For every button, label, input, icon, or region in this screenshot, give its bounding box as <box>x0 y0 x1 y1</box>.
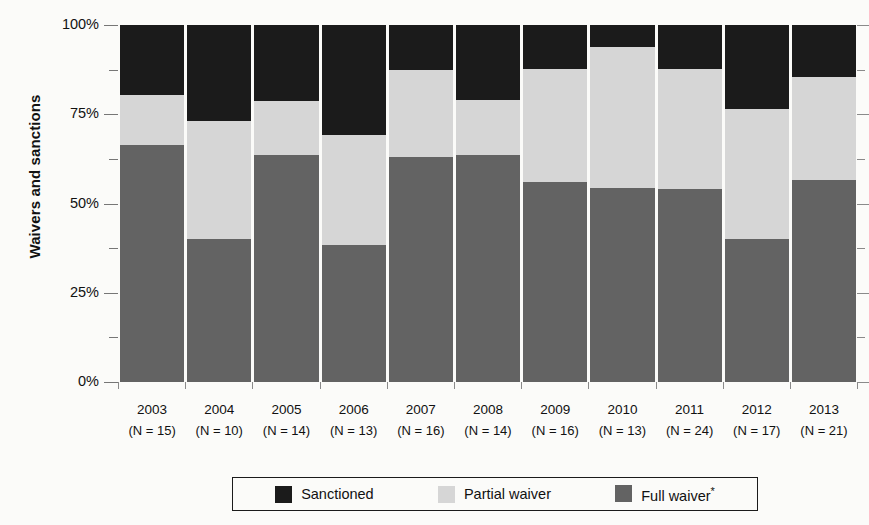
x-axis-year: 2006 <box>322 400 386 421</box>
bar-column <box>725 25 789 382</box>
y-axis-title: Waivers and sanctions <box>26 57 43 297</box>
legend-item-full-waiver: Full waiver* <box>615 485 715 504</box>
bar-segment <box>254 155 318 382</box>
x-axis-sample-size: (N = 15) <box>120 421 184 441</box>
right-axis-tick-major <box>857 114 869 115</box>
y-axis-tick-minor <box>109 159 118 160</box>
x-axis-end-tick <box>857 382 858 389</box>
legend-swatch-full-waiver <box>615 485 632 502</box>
bar-segment <box>120 95 184 145</box>
x-axis-year: 2005 <box>254 400 318 421</box>
bar-column <box>120 25 184 382</box>
x-axis-label: 2009(N = 16) <box>523 382 587 441</box>
bar-segment <box>187 25 251 121</box>
right-axis-tick-minor <box>857 337 865 338</box>
bar-segment <box>523 182 587 382</box>
y-axis-tick-minor <box>109 70 118 71</box>
x-axis-sample-size: (N = 13) <box>590 421 654 441</box>
x-axis-label: 2010(N = 13) <box>590 382 654 441</box>
legend-label: Full waiver* <box>641 485 715 504</box>
x-axis-sample-size: (N = 16) <box>389 421 453 441</box>
legend-swatch-sanctioned <box>275 486 292 503</box>
legend-item-partial-waiver: Partial waiver <box>438 486 551 503</box>
x-axis-label: 2008(N = 14) <box>456 382 520 441</box>
x-axis-label: 2011(N = 24) <box>658 382 722 441</box>
bar-segment <box>389 70 453 157</box>
right-axis-tick-major <box>857 25 869 26</box>
bar-segment <box>590 47 654 188</box>
y-axis-tick-label: 75% <box>70 105 99 121</box>
bar-column <box>456 25 520 382</box>
x-axis-sample-size: (N = 21) <box>792 421 856 441</box>
bar-segment <box>254 25 318 101</box>
x-axis-sample-size: (N = 17) <box>725 421 789 441</box>
x-axis-year: 2007 <box>389 400 453 421</box>
x-axis-label: 2006(N = 13) <box>322 382 386 441</box>
x-axis-year: 2008 <box>456 400 520 421</box>
bar-group <box>120 25 856 382</box>
right-axis-tick-minor <box>857 70 865 71</box>
x-axis-year: 2009 <box>523 400 587 421</box>
bar-column <box>389 25 453 382</box>
y-axis-tick-minor <box>109 248 118 249</box>
bar-segment <box>523 69 587 182</box>
x-axis-sample-size: (N = 13) <box>322 421 386 441</box>
x-axis-year: 2010 <box>590 400 654 421</box>
legend-label: Partial waiver <box>464 486 551 502</box>
bar-segment <box>725 109 789 239</box>
y-axis-tick-label: 25% <box>70 284 99 300</box>
bar-segment <box>187 121 251 239</box>
right-axis-tick-minor <box>857 248 865 249</box>
bar-segment <box>389 25 453 70</box>
right-axis-tick-major <box>857 204 869 205</box>
bar-segment <box>254 101 318 155</box>
bar-segment <box>725 239 789 382</box>
y-axis-tick-major: 0% <box>104 382 118 383</box>
legend-item-sanctioned: Sanctioned <box>275 486 374 503</box>
x-axis-label: 2003(N = 15) <box>120 382 184 441</box>
right-axis-tick-major <box>857 382 869 383</box>
x-axis-label: 2005(N = 14) <box>254 382 318 441</box>
y-axis-tick-label: 0% <box>78 373 99 389</box>
legend-footnote-marker: * <box>711 485 715 497</box>
y-axis-tick-major: 50% <box>104 204 118 205</box>
bar-column <box>187 25 251 382</box>
bar-segment <box>456 25 520 100</box>
x-axis-sample-size: (N = 10) <box>187 421 251 441</box>
x-axis-year: 2003 <box>120 400 184 421</box>
bar-segment <box>322 135 386 244</box>
bar-segment <box>590 188 654 382</box>
bar-segment <box>322 25 386 135</box>
bar-segment <box>523 25 587 69</box>
y-axis-tick-label: 50% <box>70 195 99 211</box>
x-axis-year: 2013 <box>792 400 856 421</box>
legend-swatch-partial-waiver <box>438 486 455 503</box>
bar-segment <box>658 69 722 189</box>
x-axis-label: 2012(N = 17) <box>725 382 789 441</box>
bar-segment <box>590 25 654 47</box>
bar-segment <box>658 189 722 382</box>
x-axis-sample-size: (N = 24) <box>658 421 722 441</box>
x-axis-sample-size: (N = 14) <box>254 421 318 441</box>
x-axis-year: 2011 <box>658 400 722 421</box>
y-axis-tick-minor <box>109 337 118 338</box>
right-axis-tick-minor <box>857 159 865 160</box>
bar-segment <box>658 25 722 69</box>
bar-column <box>792 25 856 382</box>
bar-segment <box>725 25 789 109</box>
bar-segment <box>456 155 520 382</box>
right-axis-tick-major <box>857 293 869 294</box>
bar-column <box>254 25 318 382</box>
x-axis-year: 2004 <box>187 400 251 421</box>
y-axis-tick-label: 100% <box>62 16 99 32</box>
bar-segment <box>389 157 453 382</box>
x-axis-sample-size: (N = 16) <box>523 421 587 441</box>
bar-segment <box>120 25 184 95</box>
bar-segment <box>187 239 251 382</box>
bar-segment <box>792 77 856 180</box>
x-axis-year: 2012 <box>725 400 789 421</box>
y-axis-tick-major: 75% <box>104 114 118 115</box>
bar-column <box>658 25 722 382</box>
x-axis-sample-size: (N = 14) <box>456 421 520 441</box>
